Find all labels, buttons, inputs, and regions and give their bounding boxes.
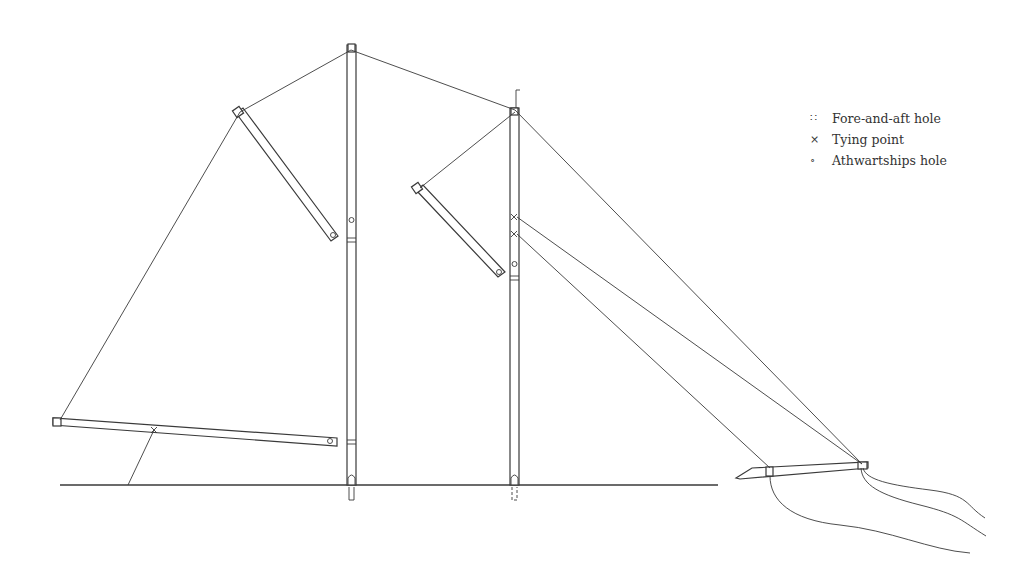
legend: ∷ Fore-and-aft hole × Tying point ∘ Athw… — [810, 108, 947, 171]
athwartships-hole-icon: ∘ — [810, 154, 832, 167]
boom — [53, 418, 337, 446]
rigging-diagram — [0, 0, 1036, 586]
trailing-lines — [770, 468, 986, 553]
spar-upper-left — [232, 106, 338, 241]
mast-1 — [347, 44, 356, 500]
legend-item-tying-point: × Tying point — [810, 129, 947, 150]
legend-label: Fore-and-aft hole — [832, 111, 941, 126]
bowsprit — [736, 462, 868, 479]
legend-item-athwartships-hole: ∘ Athwartships hole — [810, 150, 947, 171]
spar-middle — [411, 182, 505, 277]
tying-point-icon: × — [810, 133, 832, 146]
legend-label: Athwartships hole — [832, 153, 947, 168]
fore-and-aft-hole-icon: ∷ — [810, 112, 832, 125]
rigging-lines — [60, 50, 862, 485]
mast-2 — [510, 90, 520, 500]
legend-label: Tying point — [832, 132, 904, 147]
legend-item-fore-and-aft-hole: ∷ Fore-and-aft hole — [810, 108, 947, 129]
